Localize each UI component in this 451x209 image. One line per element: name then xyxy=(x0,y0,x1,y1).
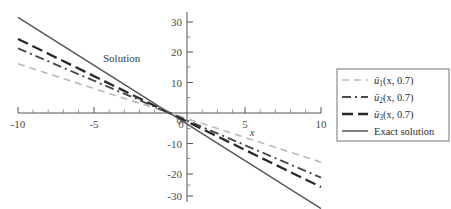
x-tick-label: 10 xyxy=(316,118,328,130)
y-tick-label: -30 xyxy=(167,190,182,202)
legend-label-exact: Exact solution xyxy=(374,126,435,137)
y-tick-label: 10 xyxy=(171,77,183,89)
x-tick-label: 5 xyxy=(242,118,248,130)
y-tick-label: 30 xyxy=(171,16,183,28)
solution-annotation: Solution xyxy=(103,52,141,64)
y-tick-labels: 30 20 10 0 -10 -20 -30 xyxy=(167,16,182,202)
y-tick-label: -10 xyxy=(167,138,182,150)
y-tick-label: 20 xyxy=(171,46,183,58)
chart-figure: -10 -5 0 5 10 30 20 10 0 -10 -20 -30 Sol… xyxy=(0,0,451,209)
plot-svg: -10 -5 0 5 10 30 20 10 0 -10 -20 -30 Sol… xyxy=(0,0,451,209)
x-tick-labels: -10 -5 0 5 10 xyxy=(11,118,327,130)
y-minor-ticks xyxy=(187,37,191,185)
x-tick-label: -5 xyxy=(89,118,99,130)
y-major-ticks xyxy=(187,22,193,196)
x-tick-label: -10 xyxy=(11,118,26,130)
y-tick-label: -20 xyxy=(167,168,182,180)
chart-legend: ū1(x, 0.7)ū2(x, 0.7)ū3(x, 0.7)Exact solu… xyxy=(337,69,449,141)
x-axis-label: x xyxy=(249,127,255,138)
